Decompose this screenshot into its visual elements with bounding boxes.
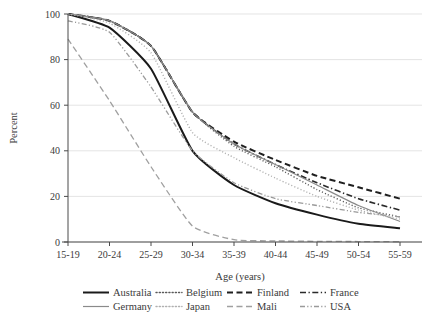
series-line-belgium	[68, 14, 400, 217]
series-lines	[68, 14, 400, 242]
x-tick-label: 55-59	[388, 249, 411, 260]
legend-item-mali[interactable]: Mali	[227, 301, 277, 312]
y-axis-title: Percent	[8, 112, 19, 144]
legend-item-france[interactable]: France	[300, 287, 359, 298]
legend-item-germany[interactable]: Germany	[83, 301, 153, 312]
y-tick-label: 100	[45, 9, 60, 20]
y-tick-label: 60	[50, 100, 60, 111]
legend-label: Mali	[257, 301, 277, 312]
axes	[62, 14, 422, 246]
legend-label: Belgium	[186, 287, 222, 298]
x-tick-label: 40-44	[264, 249, 287, 260]
legend-label: France	[330, 287, 359, 298]
x-tick-label: 25-29	[139, 249, 162, 260]
y-tick-label: 40	[50, 145, 60, 156]
y-tick-label: 20	[50, 191, 60, 202]
series-line-france	[68, 14, 400, 210]
x-tick-label: 15-19	[56, 249, 79, 260]
legend-item-belgium[interactable]: Belgium	[156, 287, 222, 298]
chart-legend: AustraliaBelgiumFinlandFranceGermanyJapa…	[83, 287, 359, 312]
legend-item-australia[interactable]: Australia	[83, 287, 152, 298]
legend-label: Germany	[113, 301, 153, 312]
chart-container: 020406080100 15-1920-2425-2930-3435-3940…	[0, 0, 429, 324]
series-line-japan	[68, 14, 400, 219]
legend-item-finland[interactable]: Finland	[227, 287, 290, 298]
legend-label: Finland	[257, 287, 290, 298]
series-line-finland	[68, 14, 400, 199]
x-tick-label: 35-39	[222, 249, 245, 260]
x-tick-label: 30-34	[181, 249, 204, 260]
legend-item-usa[interactable]: USA	[300, 301, 351, 312]
x-tick-label: 45-49	[305, 249, 328, 260]
gridlines	[68, 14, 422, 242]
x-tick-label: 20-24	[98, 249, 121, 260]
y-tick-label: 0	[55, 237, 60, 248]
x-axis-tick-labels: 15-1920-2425-2930-3435-3940-4445-4950-54…	[56, 249, 411, 260]
series-line-usa	[68, 21, 400, 217]
y-axis-tick-labels: 020406080100	[45, 9, 60, 248]
series-line-germany	[68, 14, 400, 221]
x-axis-title: Age (years)	[215, 271, 265, 283]
legend-label: USA	[330, 301, 351, 312]
legend-label: Japan	[186, 301, 211, 312]
legend-label: Australia	[113, 287, 152, 298]
line-chart: 020406080100 15-1920-2425-2930-3435-3940…	[0, 0, 429, 324]
x-tick-label: 50-54	[347, 249, 370, 260]
legend-item-japan[interactable]: Japan	[156, 301, 211, 312]
y-tick-label: 80	[50, 54, 60, 65]
